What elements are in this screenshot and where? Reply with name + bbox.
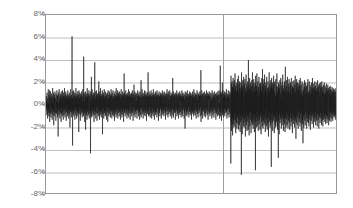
y-axis-tick-label: -4% [5,145,45,153]
y-axis-tick-label: -6% [5,168,45,176]
series-returns [46,15,337,194]
y-axis-tick-label: 4% [5,55,45,63]
y-axis-tick-label: 6% [5,33,45,41]
y-axis-tick-mark [41,194,45,195]
y-axis-tick-label: 0% [5,100,45,108]
y-axis-tick-label: -2% [5,123,45,131]
data-line-group [46,36,337,174]
data-line [46,36,337,174]
y-axis-tick-label: 8% [5,10,45,18]
chart-container: 8%6%4%2%0%-2%-4%-6%-8% [0,0,353,208]
y-axis-tick-label: -8% [5,190,45,198]
plot-area [45,14,337,194]
y-axis-tick-label: 2% [5,78,45,86]
y-axis: 8%6%4%2%0%-2%-4%-6%-8% [0,0,45,208]
